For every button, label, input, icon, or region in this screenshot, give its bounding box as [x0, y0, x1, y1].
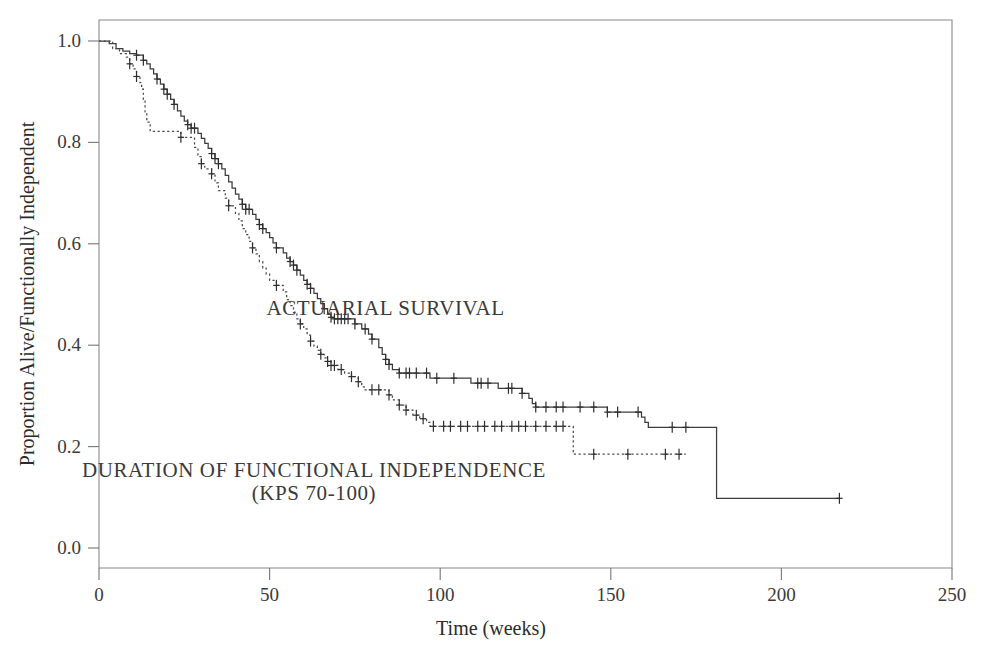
y-tick-label: 0.6	[57, 233, 81, 254]
y-axis-title: Proportion Alive/Functionally Independen…	[16, 121, 39, 466]
functional-independence-label-line1: DURATION OF FUNCTIONAL INDEPENDENCE	[82, 458, 546, 482]
x-tick-label: 250	[938, 584, 967, 605]
kaplan-meier-figure: 0.00.20.40.60.81.0 050100150200250 Time …	[0, 0, 982, 661]
functional-independence-label-line2: (KPS 70-100)	[252, 481, 376, 505]
x-tick-label: 0	[94, 584, 104, 605]
x-tick-label: 150	[597, 584, 626, 605]
x-tick-label: 50	[260, 584, 279, 605]
actuarial-survival-label: ACTUARIAL SURVIVAL	[266, 296, 504, 320]
x-tick-label: 100	[426, 584, 455, 605]
y-tick-label: 0.8	[57, 131, 81, 152]
x-axis-title: Time (weeks)	[436, 617, 546, 640]
y-tick-label: 0.2	[57, 436, 81, 457]
figure-background	[0, 0, 982, 661]
y-tick-label: 1.0	[57, 30, 81, 51]
y-tick-label: 0.0	[57, 537, 81, 558]
x-tick-label: 200	[767, 584, 796, 605]
chart-canvas: 0.00.20.40.60.81.0 050100150200250 Time …	[0, 0, 982, 661]
y-tick-label: 0.4	[57, 334, 81, 355]
